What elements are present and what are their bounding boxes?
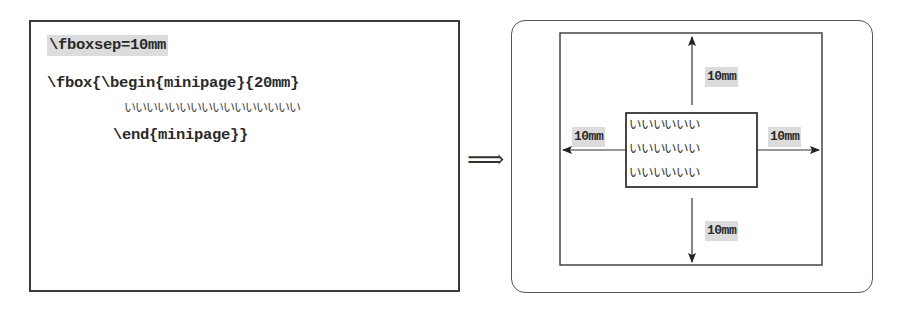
minipage-text-line: いいいいいい <box>629 114 700 135</box>
label-bottom-sep: 10mm <box>705 221 738 241</box>
label-right-sep: 10mm <box>768 127 801 147</box>
minipage-text-line: いいいいいい <box>629 162 700 183</box>
label-left-sep: 10mm <box>572 127 605 147</box>
label-top-sep: 10mm <box>705 67 738 87</box>
fbox-diagram <box>0 0 908 320</box>
minipage-text-line: いいいいいい <box>629 138 700 159</box>
